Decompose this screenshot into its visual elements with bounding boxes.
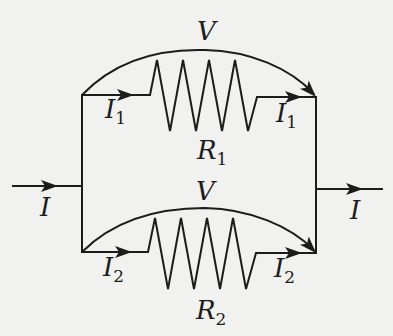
circuit-diagram: V V R1 R2 I1 I1 I2 I2 I I xyxy=(0,0,393,336)
voltage-label-top: V xyxy=(197,16,218,46)
voltage-label-bottom: V xyxy=(196,176,217,206)
current-i2-out-label: I2 xyxy=(273,253,295,287)
current-i2-in-label: I2 xyxy=(102,252,124,286)
current-i1-out-label: I1 xyxy=(275,98,297,132)
resistor-r1-label: R1 xyxy=(196,135,227,169)
resistor-r2-label: R2 xyxy=(195,295,226,329)
voltage-v1-arc xyxy=(82,50,314,95)
voltage-v2-arc xyxy=(82,208,314,252)
output-current-label: I xyxy=(349,195,361,225)
circuit-svg: V V R1 R2 I1 I1 I2 I2 I I xyxy=(0,0,393,336)
input-current-label: I xyxy=(39,192,51,222)
current-i1-in-label: I1 xyxy=(104,94,126,128)
